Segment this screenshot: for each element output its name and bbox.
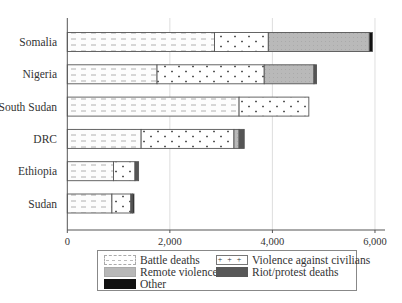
legend: Battle deaths +++ Violence against civil…	[97, 250, 357, 291]
other-swatch	[104, 279, 136, 289]
category-label: Nigeria	[23, 68, 57, 81]
legend-item-battle-deaths: Battle deaths	[104, 254, 200, 266]
bar-sudan	[67, 194, 134, 213]
bar-segment-battle-deaths	[67, 162, 113, 181]
category-label: DRC	[33, 133, 57, 145]
bar-segment-riot-protest-deaths	[239, 129, 244, 148]
legend-item-remote-violence: Remote violence	[104, 266, 218, 278]
bar-segment-riot-protest-deaths	[135, 162, 139, 181]
bars	[67, 33, 372, 214]
legend-label: Violence against civilians	[252, 254, 370, 266]
bar-segment-violence-against-civilians	[113, 162, 135, 181]
legend-item-violence-against-civilians: +++ Violence against civilians	[216, 254, 370, 266]
bar-segment-battle-deaths	[67, 65, 157, 84]
bar-segment-violence-against-civilians	[157, 65, 264, 84]
bar-ethiopia	[67, 162, 138, 181]
bar-segment-other	[132, 194, 134, 213]
bar-segment-remote-violence	[264, 65, 314, 84]
category-label: South Sudan	[0, 101, 57, 113]
bar-nigeria	[67, 65, 316, 84]
bar-segment-violence-against-civilians	[239, 97, 309, 116]
legend-label: Riot/protest deaths	[252, 266, 339, 278]
bar-segment-other	[369, 33, 372, 52]
remote-violence-swatch	[104, 267, 136, 277]
x-tick-label: 0	[65, 236, 70, 247]
bar-segment-remote-violence	[268, 33, 369, 52]
violence-against-civilians-swatch: +++	[216, 255, 248, 265]
bar-segment-battle-deaths	[67, 33, 214, 52]
x-tick-label: 6,000	[363, 236, 387, 247]
bar-segment-violence-against-civilians	[141, 129, 234, 148]
category-label: Sudan	[28, 198, 57, 210]
bar-drc	[67, 129, 244, 148]
bar-segment-violence-against-civilians	[214, 33, 268, 52]
bar-segment-riot-protest-deaths	[314, 65, 317, 84]
bar-south-sudan	[67, 97, 309, 116]
legend-item-riot-protest-deaths: Riot/protest deaths	[216, 266, 339, 278]
legend-item-other: Other	[104, 278, 166, 290]
legend-label: Remote violence	[140, 266, 218, 278]
bar-segment-violence-against-civilians	[112, 194, 131, 213]
bar-segment-battle-deaths	[67, 194, 112, 213]
legend-label: Battle deaths	[140, 254, 200, 266]
bar-segment-battle-deaths	[67, 97, 239, 116]
riot-protest-deaths-swatch	[216, 267, 248, 277]
battle-deaths-swatch	[104, 255, 136, 265]
x-tick-label: 2,000	[158, 236, 182, 247]
category-label: Somalia	[19, 36, 57, 48]
legend-label: Other	[140, 278, 166, 290]
bar-segment-battle-deaths	[67, 129, 141, 148]
bar-segment-remote-violence	[234, 129, 239, 148]
bar-somalia	[67, 33, 372, 52]
category-label: Ethiopia	[18, 165, 57, 178]
x-tick-label: 4,000	[261, 236, 285, 247]
